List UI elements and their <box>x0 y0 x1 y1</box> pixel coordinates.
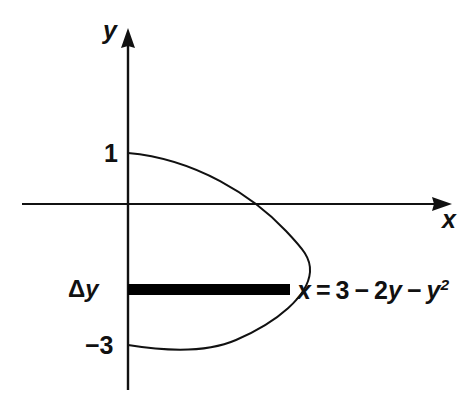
y-axis-arrowhead <box>121 28 135 48</box>
equation-variable-y-1: y <box>388 276 402 304</box>
y-axis-label: y <box>103 18 117 43</box>
equation-lhs: x <box>297 276 311 304</box>
math-figure: y x 1 −3 Δy x = 3 − 2y − y2 <box>0 0 469 405</box>
equation-constant: 3 <box>336 276 350 304</box>
equation-equals: = <box>316 276 331 304</box>
equation-variable-y-2: y <box>427 276 441 304</box>
y-tick-label-minus-3: −3 <box>85 333 114 358</box>
equation-exponent-2: 2 <box>440 276 449 293</box>
curve-equation-label: x = 3 − 2y − y2 <box>297 278 449 303</box>
equation-coefficient-2: 2 <box>374 276 388 304</box>
delta-variable: y <box>85 275 98 302</box>
parabola-curve <box>128 153 310 350</box>
x-axis-label: x <box>442 207 456 232</box>
delta-symbol: Δ <box>68 275 85 302</box>
equation-minus-2: − <box>407 276 422 304</box>
delta-y-label: Δy <box>68 277 99 301</box>
delta-y-strip <box>128 284 290 295</box>
y-tick-label-1: 1 <box>104 141 118 166</box>
equation-minus-1: − <box>354 276 369 304</box>
parabola-plot <box>0 0 469 405</box>
